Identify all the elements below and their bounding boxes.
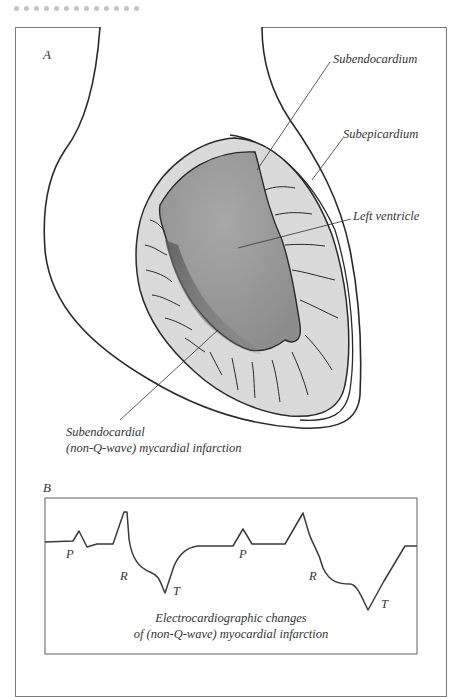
label-infarction-line1: Subendocardial xyxy=(66,425,145,440)
label-subendocardium: Subendocardium xyxy=(333,52,417,67)
ecg-trace xyxy=(45,512,417,610)
wave-label-p1: P xyxy=(66,547,74,562)
panel-label-b: B xyxy=(43,480,51,496)
panel-label-a: A xyxy=(43,47,51,63)
label-subepicardium: Subepicardium xyxy=(343,127,418,142)
wave-label-t1: T xyxy=(173,584,180,599)
ecg-caption-line2: of (non-Q-wave) myocardial infarction xyxy=(45,626,417,642)
wave-label-r1: R xyxy=(120,569,128,584)
label-left-ventricle: Left ventricle xyxy=(353,209,419,224)
wave-label-r2: R xyxy=(309,569,317,584)
ecg-caption-line1: Electrocardiographic changes xyxy=(45,610,417,626)
wave-label-p2: P xyxy=(239,547,247,562)
label-infarction-line2: (non-Q-wave) mycardial infarction xyxy=(66,441,241,456)
